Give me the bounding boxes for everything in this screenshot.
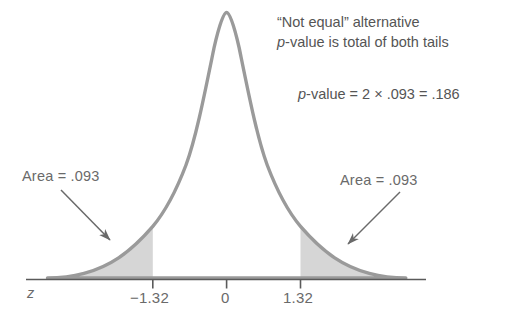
- formula-rest: -value = 2 × .093 = .186: [306, 86, 460, 102]
- right-area-label: Area = .093: [340, 172, 418, 188]
- normal-distribution-two-tailed-pvalue-figure: “Not equal” alternative p-value is total…: [0, 0, 516, 317]
- left-tail-shaded-area: [48, 226, 153, 278]
- callout-line-2: p-value is total of both tails: [277, 32, 512, 52]
- left-area-arrow: [61, 190, 110, 240]
- callout-line-1: “Not equal” alternative: [277, 12, 512, 32]
- right-tail-shaded-area: [301, 226, 406, 278]
- right-area-arrow: [348, 192, 400, 244]
- tick-label-zero: 0: [221, 289, 230, 306]
- callout-p-symbol: p: [277, 34, 285, 50]
- axis-variable-label: z: [27, 285, 34, 301]
- alternative-hypothesis-callout: “Not equal” alternative p-value is total…: [277, 12, 512, 52]
- pvalue-formula: p-value = 2 × .093 = .186: [298, 86, 460, 102]
- callout-line-2-rest: -value is total of both tails: [285, 34, 449, 50]
- tick-label-positive: 1.32: [283, 289, 313, 306]
- formula-p-symbol: p: [298, 86, 306, 102]
- tick-label-negative: −1.32: [130, 289, 169, 306]
- left-area-label: Area = .093: [22, 168, 100, 184]
- normal-curve: [48, 13, 406, 279]
